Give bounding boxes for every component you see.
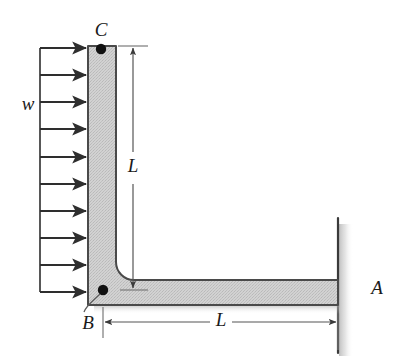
dimension-label-vertical: L [127, 155, 139, 176]
dimension-vertical-L: L [118, 46, 148, 290]
fixed-support-wall [338, 218, 353, 356]
wall-shadow [339, 224, 353, 356]
node-b-label: B [82, 312, 94, 333]
node-a-label: A [369, 277, 383, 298]
distributed-load-w: w [22, 48, 86, 292]
node-b-dot [98, 285, 108, 295]
dimension-label-horizontal: L [215, 309, 227, 330]
node-c-label: C [95, 19, 108, 40]
node-c: C [95, 19, 108, 54]
member-body [88, 46, 338, 305]
l-frame-member [88, 46, 340, 314]
load-arrow-group [40, 48, 86, 292]
l-frame-diagram: w L L C [0, 0, 407, 364]
node-c-dot [96, 44, 106, 54]
load-label-w: w [22, 93, 35, 114]
node-a: A [369, 277, 383, 298]
figure-canvas: w L L C [0, 0, 407, 364]
